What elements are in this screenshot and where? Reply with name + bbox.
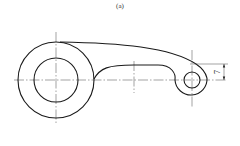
dimension-value: 7 (213, 70, 222, 74)
arm-lower-profile (94, 65, 175, 80)
arm-upper-profile (60, 42, 207, 78)
small-hub-outer-arc (175, 78, 207, 95)
dimension-arrow-top-icon (223, 64, 225, 68)
dimension-arrow-bottom-icon (223, 77, 225, 81)
technical-drawing: 7 (0, 0, 240, 146)
